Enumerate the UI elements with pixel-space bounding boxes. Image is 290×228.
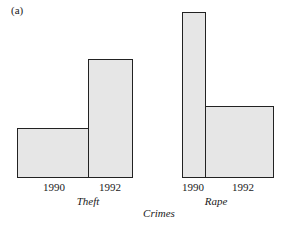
bar-rape-1992 <box>205 106 274 178</box>
tick-theft-1992: 1992 <box>99 181 121 193</box>
tick-rape-1990: 1990 <box>182 181 204 193</box>
x-axis-title: Crimes <box>143 207 175 219</box>
group-label-rape: Rape <box>205 195 228 207</box>
bar-theft-1990 <box>17 128 89 178</box>
tick-theft-1990: 1990 <box>43 181 65 193</box>
panel-label: (a) <box>11 4 23 16</box>
bar-theft-1992 <box>88 59 133 178</box>
bar-rape-1990 <box>182 12 206 178</box>
tick-rape-1992: 1992 <box>232 181 254 193</box>
group-label-theft: Theft <box>77 195 100 207</box>
